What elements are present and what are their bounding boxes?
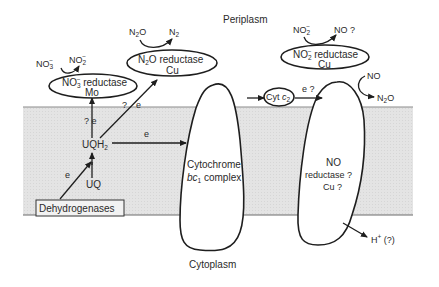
nitrate-product: NO2− [69, 53, 87, 66]
n2o-reductase-line2: Cu [166, 65, 179, 76]
nitrate-reductase-line2: Mo [85, 87, 99, 98]
dehydrogenases-label: Dehydrogenases [39, 203, 115, 214]
q-label-n2o: ? [122, 100, 127, 110]
periplasm-label: Periplasm [223, 14, 267, 25]
no-reductase-line2: reductase ? [305, 170, 352, 180]
e-label-n2o: e [136, 100, 141, 110]
denitrification-diagram: Periplasm Cytoplasm Cytochrome bc1 compl… [0, 0, 439, 287]
nitrite-substrate: NO2− [293, 23, 311, 36]
cytoplasm-label: Cytoplasm [189, 259, 236, 270]
n2o-substrate: N2O [129, 27, 146, 38]
e-label-dehydrogenase: e [65, 170, 70, 180]
e-label-bc1: e [144, 129, 149, 139]
proton-label: H+ (?) [371, 233, 395, 245]
no-reductase-line1: NO [326, 157, 341, 168]
cytochrome-label-line2: bc1 complex [187, 172, 241, 184]
cytochrome-label-line1: Cytochrome [187, 159, 241, 170]
e-label-cytc2: e ? [302, 84, 315, 94]
uq-label: UQ [86, 179, 101, 190]
n2o-product: N2 [169, 27, 180, 38]
e-label-nitrate: ? e [84, 116, 97, 126]
no-reductase-line3: Cu ? [323, 182, 342, 192]
nitrite-reductase-line2: Cu [318, 59, 331, 70]
no-substrate: NO [367, 71, 381, 81]
nitrite-product: NO ? [334, 25, 355, 35]
arrow-n2o-reaction [140, 39, 172, 47]
arrow-nitrate-reaction [61, 66, 79, 73]
nitrate-substrate: NO3− [36, 57, 54, 70]
arrow-nitrite-reaction [304, 35, 336, 44]
no-product: N2O [377, 93, 394, 104]
